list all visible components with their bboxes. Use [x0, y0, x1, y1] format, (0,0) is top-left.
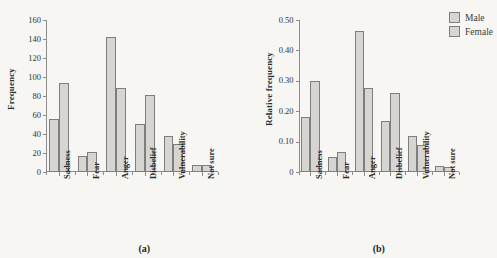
x-boundary-tick — [299, 172, 300, 175]
y-tick-mark — [43, 115, 47, 116]
x-tick-label-fear: Fear — [91, 162, 101, 179]
y-tick-mark — [43, 153, 47, 154]
bar-fear-male — [328, 157, 337, 172]
x-tick-label-not-sure: Not sure — [206, 148, 216, 179]
x-boundary-tick — [325, 172, 326, 175]
bar-sadness-male — [301, 117, 310, 172]
x-tick-label-fear: Fear — [341, 162, 351, 179]
x-tick-label-disbelief: Disbelief — [394, 147, 404, 179]
x-boundary-tick — [379, 172, 380, 175]
x-tick-label-vulnerability: Vulnerability — [177, 131, 187, 179]
x-tick-mark — [145, 172, 146, 176]
y-tick-mark — [296, 111, 300, 112]
x-boundary-tick — [189, 172, 190, 175]
legend-swatch-female — [449, 26, 460, 37]
panel-caption-a: (a) — [0, 243, 269, 254]
y-axis-label-b: Relative frequency — [264, 41, 274, 137]
x-tick-mark — [337, 172, 338, 176]
x-tick-label-anger: Anger — [367, 156, 377, 179]
x-tick-mark — [173, 172, 174, 176]
y-tick-mark — [43, 20, 47, 21]
plot-area-a: 020406080100120140160SadnessFearAngerDis… — [46, 20, 218, 172]
y-tick-mark — [43, 134, 47, 135]
x-boundary-tick — [218, 172, 219, 175]
x-boundary-tick — [103, 172, 104, 175]
x-boundary-tick — [405, 172, 406, 175]
bar-anger-male — [106, 37, 116, 172]
x-tick-label-not-sure: Not sure — [447, 148, 457, 179]
x-boundary-tick — [46, 172, 47, 175]
x-tick-label-vulnerability: Vulnerability — [421, 131, 431, 179]
x-tick-mark — [390, 172, 391, 176]
y-axis-label-a: Frequency — [6, 59, 16, 119]
bar-vulnerability-male — [408, 136, 417, 172]
legend-label-male: Male — [465, 13, 485, 23]
y-tick-mark — [43, 96, 47, 97]
y-tick-mark — [296, 50, 300, 51]
x-tick-label-sadness: Sadness — [62, 150, 72, 179]
x-tick-label-sadness: Sadness — [314, 150, 324, 179]
x-tick-mark — [59, 172, 60, 176]
x-tick-mark — [202, 172, 203, 176]
bar-sadness-male — [49, 119, 59, 172]
x-tick-label-anger: Anger — [120, 156, 130, 179]
y-tick-mark — [43, 77, 47, 78]
x-tick-mark — [364, 172, 365, 176]
bar-fear-male — [78, 156, 88, 172]
bar-disbelief-male — [135, 124, 145, 172]
legend-swatch-male — [449, 12, 460, 23]
y-tick-mark — [296, 81, 300, 82]
x-boundary-tick — [352, 172, 353, 175]
panel-caption-b: (b) — [249, 243, 497, 254]
x-tick-mark — [417, 172, 418, 176]
panel-b: Relative frequency 00.100.200.300.400.50… — [249, 0, 497, 258]
y-tick-mark — [296, 142, 300, 143]
legend-item-female: Female — [449, 26, 493, 37]
bar-not-sure-male — [435, 166, 444, 172]
x-boundary-tick — [75, 172, 76, 175]
x-boundary-tick — [432, 172, 433, 175]
y-tick-mark — [43, 39, 47, 40]
x-boundary-tick — [132, 172, 133, 175]
plot-area-b: 00.100.200.300.400.50SadnessFearAngerDis… — [299, 20, 459, 172]
legend-label-female: Female — [465, 27, 493, 37]
bar-vulnerability-male — [164, 136, 174, 172]
bar-not-sure-male — [192, 165, 202, 172]
x-tick-mark — [87, 172, 88, 176]
x-tick-mark — [310, 172, 311, 176]
bar-disbelief-male — [381, 121, 390, 172]
x-tick-mark — [116, 172, 117, 176]
x-tick-mark — [444, 172, 445, 176]
bar-anger-male — [355, 31, 364, 172]
legend: MaleFemale — [449, 12, 493, 40]
y-tick-mark — [296, 20, 300, 21]
legend-item-male: Male — [449, 12, 493, 23]
panel-a: Frequency 020406080100120140160SadnessFe… — [0, 0, 249, 258]
figure-container: Frequency 020406080100120140160SadnessFe… — [0, 0, 497, 258]
y-tick-mark — [43, 58, 47, 59]
x-tick-label-disbelief: Disbelief — [148, 147, 158, 179]
x-boundary-tick — [161, 172, 162, 175]
x-boundary-tick — [459, 172, 460, 175]
